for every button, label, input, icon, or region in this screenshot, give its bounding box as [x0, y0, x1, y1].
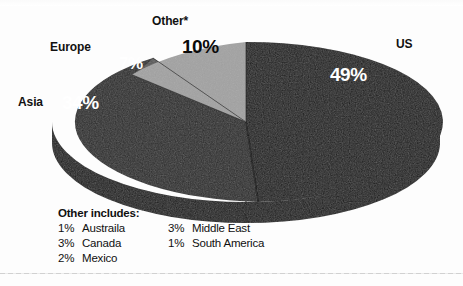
legend-title: Other includes: — [58, 206, 264, 220]
legend-region: Mexico — [82, 251, 168, 266]
legend-percent: 3% — [58, 236, 82, 251]
pie-label-asia: Asia — [18, 95, 43, 109]
pie-value-us: 49% — [330, 64, 367, 86]
legend-region — [192, 251, 264, 266]
legend-percent: 3% — [168, 221, 192, 236]
legend-region: South America — [192, 236, 264, 251]
pie-value-other: 10% — [182, 36, 219, 58]
bottom-divider-rule — [0, 273, 463, 274]
other-includes-legend: Other includes: 1% Austraila 3% Middle E… — [58, 206, 264, 266]
legend-grid: 1% Austraila 3% Middle East 3% Canada 1%… — [58, 221, 264, 266]
pie-value-europe: 7% — [119, 54, 143, 74]
pie-chart-figure: Asia Europe Other* US 34% 7% 10% 49% Oth… — [0, 0, 463, 286]
legend-percent: 2% — [58, 251, 82, 266]
pie-label-other: Other* — [152, 14, 188, 28]
legend-percent — [168, 251, 192, 266]
legend-region: Canada — [82, 236, 168, 251]
legend-percent: 1% — [58, 221, 82, 236]
legend-region: Austraila — [82, 221, 168, 236]
legend-percent: 1% — [168, 236, 192, 251]
pie-label-europe: Europe — [50, 40, 91, 54]
legend-region: Middle East — [192, 221, 264, 236]
pie-value-asia: 34% — [62, 92, 99, 114]
pie-label-us: US — [396, 37, 412, 51]
